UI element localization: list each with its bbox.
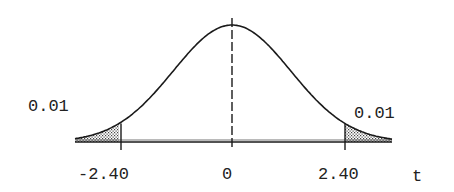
density-curve	[75, 25, 392, 139]
right-tail-region	[345, 124, 392, 143]
right-tail-label: 0.01	[354, 104, 395, 123]
axis-variable-label: t	[412, 167, 422, 186]
tick-label-right: 2.40	[318, 165, 359, 184]
left-tail-label: 0.01	[28, 97, 69, 116]
tick-label-center: 0	[222, 165, 232, 184]
t-distribution-chart: 0.01 0.01 -2.40 0 2.40 t	[0, 0, 454, 192]
tick-label-left: -2.40	[78, 165, 129, 184]
